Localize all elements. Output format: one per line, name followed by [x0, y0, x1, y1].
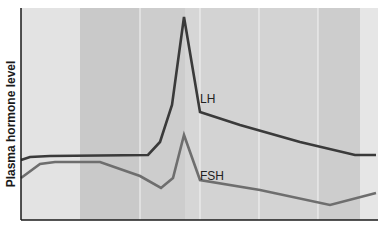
lh-label: LH	[200, 92, 215, 106]
phase-band-7	[360, 8, 378, 220]
phase-band-1	[80, 8, 140, 220]
phase-band-0	[21, 8, 80, 220]
hormone-chart: Plasma hormone level LH FSH	[0, 0, 386, 238]
phase-band-6	[318, 8, 360, 220]
phase-band-5	[259, 8, 318, 220]
y-axis-label: Plasma hormone level	[4, 61, 18, 188]
fsh-label: FSH	[200, 169, 224, 183]
